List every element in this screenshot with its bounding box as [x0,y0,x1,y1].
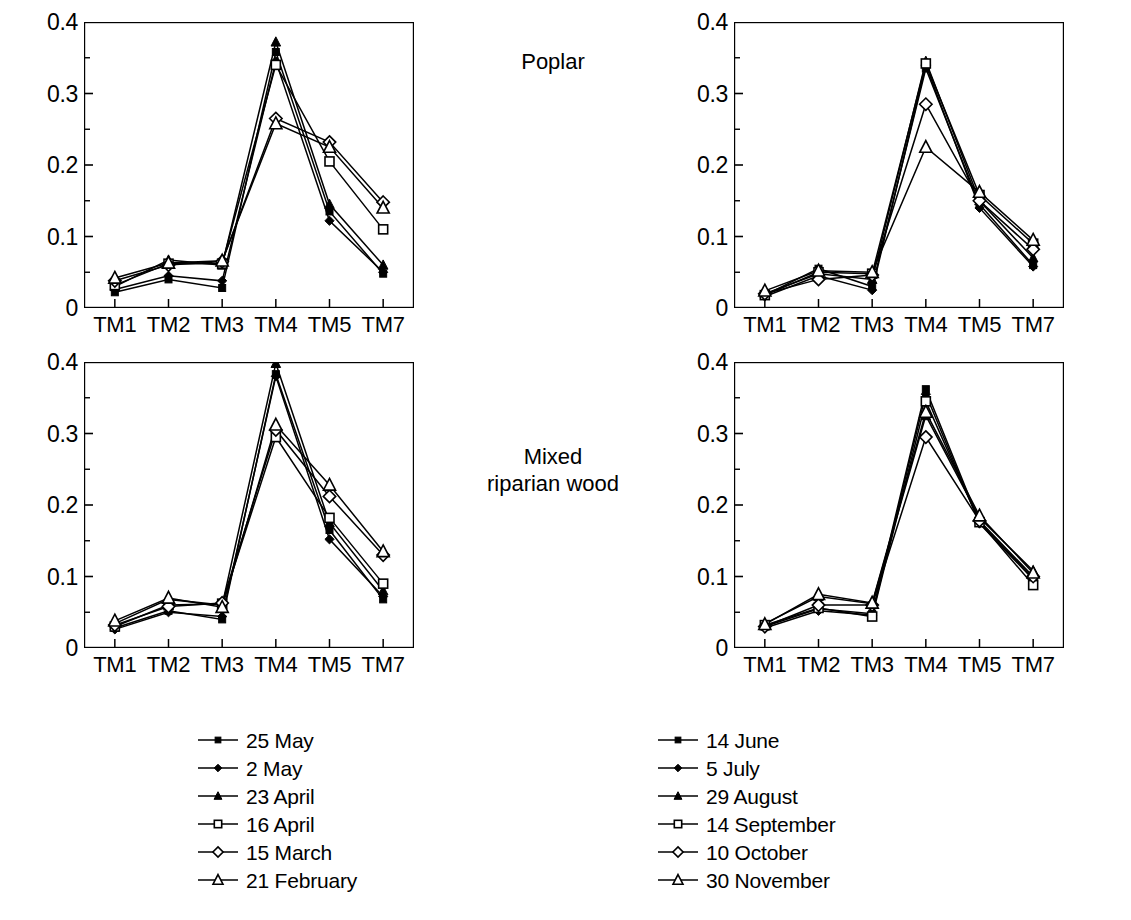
legend-marker-open-square-icon [656,814,700,834]
y-axis-labels: 0.40.30.20.10 [22,362,84,648]
legend-left: 25 May2 May23 April16 April15 March21 Fe… [196,726,357,894]
open-square-marker [379,579,388,588]
legend-label: 21 February [246,870,357,891]
series-line [765,104,1033,293]
x-tick-label: TM5 [958,652,1001,678]
plot-svg [734,22,1064,308]
x-tick-label: TM7 [361,312,404,338]
legend-item[interactable]: 15 March [196,838,357,866]
filled-square-marker [326,208,333,215]
x-tick-label: TM4 [254,312,297,338]
plot-svg [84,22,414,308]
legend-item[interactable]: 29 August [656,782,836,810]
y-tick-label: 0.3 [47,422,78,445]
plot-frame [735,23,1064,308]
legend-marker-open-diamond-icon [196,842,240,862]
series-markers [110,60,387,289]
series-markers [110,372,388,634]
x-tick-label: TM5 [308,652,351,678]
x-tick-label: TM5 [958,312,1001,338]
legend-item[interactable]: 2 May [196,754,357,782]
filled-diamond-marker [674,764,682,772]
series-markers [110,57,388,294]
legend-item[interactable]: 14 June [656,726,836,754]
open-diamond-marker [920,98,932,110]
series-line [115,430,383,625]
y-tick-label: 0.4 [47,351,78,374]
plot-area [734,22,1064,308]
legend-marker-open-triangle-icon [656,870,700,890]
y-tick-label: 0.3 [697,422,728,445]
series-line [765,68,1033,295]
series-markers [110,433,387,631]
open-square-marker [674,820,681,827]
legend-marker-open-square-icon [196,814,240,834]
legend-item[interactable]: 21 February [196,866,357,894]
open-square-marker [868,612,877,621]
open-square-marker [214,820,221,827]
x-tick-label: TM7 [1011,652,1054,678]
open-triangle-marker [109,614,121,626]
open-square-marker [921,59,930,68]
legend-label: 29 August [706,786,798,807]
legend-item[interactable]: 25 May [196,726,357,754]
series-markers [759,98,1040,300]
series-markers [760,397,1037,630]
series-markers [759,141,1039,296]
legend-marker-open-diamond-icon [656,842,700,862]
legend-marker-open-triangle-icon [196,870,240,890]
series-line [765,65,1033,297]
y-tick-label: 0 [716,637,729,660]
legend-label: 23 April [246,786,314,807]
x-tick-label: TM7 [361,652,404,678]
legend-item[interactable]: 14 September [656,810,836,838]
panel-title-mixed-riparian-wood: Mixed riparian wood [440,443,666,497]
filled-triangle-marker [271,37,281,46]
y-axis-labels: 0.40.30.20.10 [672,22,734,308]
series-markers [109,424,390,632]
y-tick-label: 0.1 [47,225,78,248]
legend-label: 2 May [246,758,302,779]
y-tick-label: 0 [716,297,729,320]
x-tick-label: TM2 [797,652,840,678]
series-line [115,124,383,278]
legend-label: 16 April [246,814,314,835]
legend-label: 14 September [706,814,836,835]
x-tick-label: TM2 [147,652,190,678]
x-tick-label: TM3 [200,312,243,338]
figure-root: 0.40.30.20.10 TM1TM2TM3TM4TM5TM7 0.40.30… [0,0,1131,920]
chart-mixed-spring: 0.40.30.20.10 TM1TM2TM3TM4TM5TM7 [22,362,432,682]
series-line [765,401,1033,625]
chart-poplar-summer-autumn: 0.40.30.20.10 TM1TM2TM3TM4TM5TM7 [672,22,1082,342]
y-tick-label: 0.4 [697,351,728,374]
open-square-marker [379,225,388,234]
legend-marker-filled-triangle-icon [656,786,700,806]
x-tick-label: TM1 [93,312,136,338]
filled-square-marker [215,737,221,743]
x-axis-labels: TM1TM2TM3TM4TM5TM7 [84,312,414,342]
x-axis-labels: TM1TM2TM3TM4TM5TM7 [734,312,1064,342]
series-line [115,376,383,629]
filled-square-marker [272,49,279,56]
y-tick-label: 0 [66,297,79,320]
y-tick-label: 0.3 [697,82,728,105]
legend-item[interactable]: 5 July [656,754,836,782]
legend-item[interactable]: 30 November [656,866,836,894]
x-tick-label: TM7 [1011,312,1054,338]
y-tick-label: 0.1 [47,565,78,588]
x-tick-label: TM5 [308,312,351,338]
legend-item[interactable]: 16 April [196,810,357,838]
legend-item[interactable]: 23 April [196,782,357,810]
x-tick-label: TM1 [743,312,786,338]
legend-marker-filled-diamond-icon [196,758,240,778]
series-line [115,425,383,621]
filled-square-marker [326,527,333,534]
legend-item[interactable]: 10 October [656,838,836,866]
legend-right: 14 June5 July29 August14 September10 Oct… [656,726,836,894]
x-tick-label: TM2 [147,312,190,338]
legend-label: 5 July [706,758,760,779]
open-triangle-marker [812,588,824,600]
y-axis-labels: 0.40.30.20.10 [22,22,84,308]
y-tick-label: 0.1 [697,565,728,588]
open-diamond-marker [213,847,223,857]
